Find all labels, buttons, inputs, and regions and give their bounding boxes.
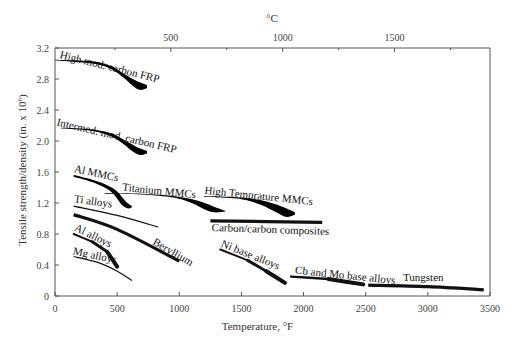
label-intermed-mod-carbon-frp: Intermed. mod. carbon FRP [56,116,178,155]
x-tick-label: 3500 [480,303,500,314]
x-tick-label: 2500 [356,303,376,314]
chart: 050010001500200025003000350000.40.81.21.… [0,0,515,350]
y-tick-label: 1.6 [37,167,50,178]
label-beryllium: Beryllium [151,235,196,268]
y-axis-title: Tensile strength/density (in. x 106) [16,94,29,246]
top-tick-label: 1000 [273,32,293,43]
top-axis-title: °C [266,12,278,24]
y-tick-label: 0 [44,291,49,302]
y-tick-label: 2.8 [37,74,50,85]
series-ni-base-alloys [266,271,285,283]
top-tick-label: 500 [163,32,178,43]
series-ti-alloys [74,206,159,227]
y-tick-label: 2.4 [37,105,50,116]
y-tick-label: 0.8 [37,229,50,240]
y-tick-label: 2.0 [37,136,50,147]
label-high-mod-carbon-frp: High mod. carbon FRP [59,48,161,84]
x-tick-label: 1000 [169,303,189,314]
label-titanium-mmcs: Titanium MMCs [122,181,197,201]
x-tick-label: 1500 [231,303,251,314]
x-tick-label: 3000 [418,303,438,314]
label-tungsten: Tungsten [403,271,444,283]
labels-layer: High mod. carbon FRPIntermed. mod. carbo… [56,48,444,286]
y-tick-label: 0.4 [37,260,50,271]
label-al-mmcs: Al MMCs [73,162,119,183]
y-tick-label: 3.2 [37,43,50,54]
x-tick-label: 2000 [294,303,314,314]
series-tungsten [368,285,484,290]
x-axis-title: Temperature, °F [222,320,293,332]
y-tick-label: 1.2 [37,198,50,209]
top-tick-label: 1500 [385,32,405,43]
x-tick-label: 0 [53,303,58,314]
x-tick-label: 500 [110,303,125,314]
label-ni-base-alloys: Ni base alloys [220,237,282,271]
